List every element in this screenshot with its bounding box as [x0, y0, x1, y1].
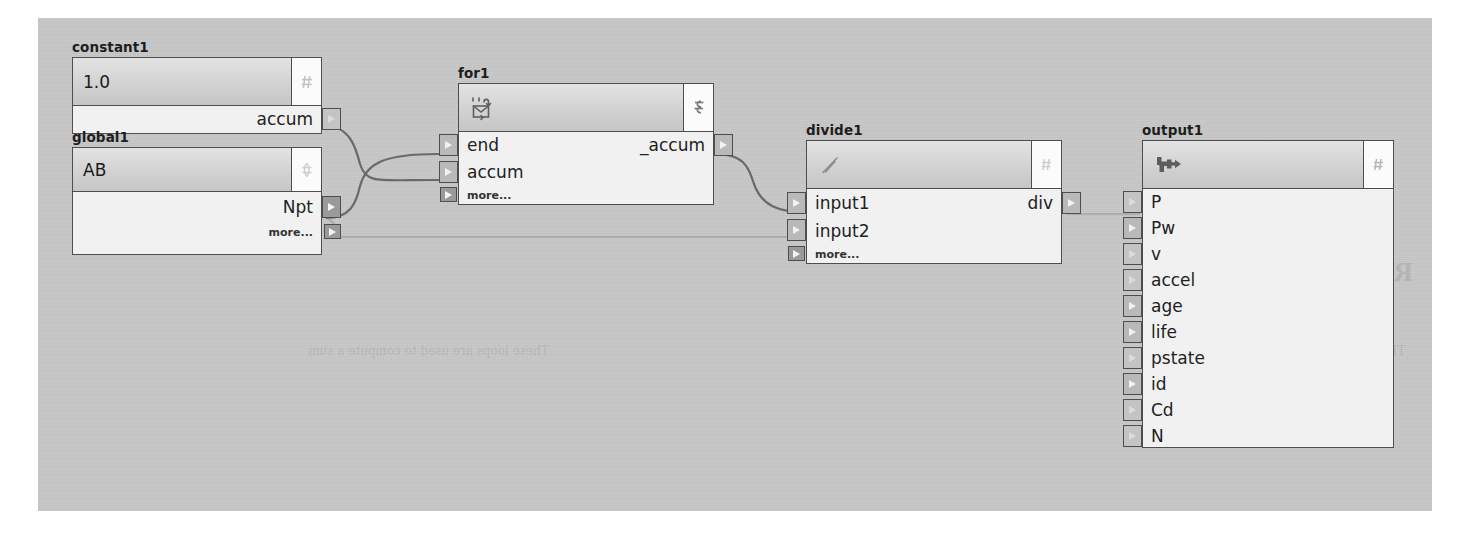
port-connector-output1-cd-in[interactable] — [1123, 399, 1142, 421]
port-connector-output1-v-in[interactable] — [1123, 243, 1142, 265]
node-body-global1[interactable]: AB — [72, 147, 322, 255]
node-header-global1: AB — [73, 148, 321, 192]
node-title-divide1: divide1 — [806, 123, 1062, 138]
global1-ports: Npt more... — [73, 192, 321, 254]
port-row-for1-accum[interactable]: accum — [459, 159, 713, 186]
port-label-pw: Pw — [1143, 220, 1175, 237]
port-label-accum-out: _accum — [640, 137, 713, 154]
port-connector-output1-pstate-in[interactable] — [1123, 347, 1142, 369]
loop-icon — [469, 94, 495, 122]
port-row-output1-accel[interactable]: accel — [1143, 267, 1393, 293]
node-title-for1: for1 — [458, 66, 714, 81]
node-for1[interactable]: for1 — [458, 66, 714, 205]
port-label-input2: input2 — [807, 223, 870, 240]
port-label-pstate: pstate — [1143, 350, 1205, 367]
output1-type-button[interactable] — [1363, 141, 1393, 188]
global1-more-label: more... — [269, 227, 321, 238]
node-body-constant1[interactable]: 1.0 — [72, 57, 322, 134]
constant1-value-text: 1.0 — [83, 72, 110, 92]
port-connector-divide1-input1-in[interactable] — [787, 192, 806, 214]
port-connector-output1-accel-in[interactable] — [1123, 269, 1142, 291]
port-label-div: div — [1027, 195, 1061, 212]
port-label-id: id — [1143, 376, 1167, 393]
port-row-divide1-input1[interactable]: input1 div — [807, 189, 1061, 217]
wire-global1-npt-to-divide1-input2 — [328, 219, 808, 237]
port-connector-for1-more-in[interactable] — [440, 187, 457, 202]
port-row-for1-more[interactable]: more... — [459, 186, 713, 204]
port-connector-divide1-div-out[interactable] — [1062, 192, 1081, 214]
node-header-divide1 — [807, 141, 1061, 189]
port-row-output1-cd[interactable]: Cd — [1143, 397, 1393, 423]
port-connector-for1-accum-in[interactable] — [439, 161, 458, 183]
constant1-value-field[interactable]: 1.0 — [73, 58, 291, 105]
divide1-icon-area — [807, 141, 1031, 188]
node-divide1[interactable]: divide1 — [806, 123, 1062, 264]
bleed-text-4: These loops are used to compute a sum — [308, 344, 549, 358]
port-connector-constant1-accum-out[interactable] — [322, 108, 341, 130]
port-row-output1-life[interactable]: life — [1143, 319, 1393, 345]
divide1-more-label: more... — [807, 249, 859, 260]
port-row-for1-end[interactable]: end _accum — [459, 132, 713, 159]
port-label-end: end — [459, 137, 499, 154]
port-connector-output1-n-in[interactable] — [1123, 425, 1142, 447]
for1-type-button[interactable] — [683, 84, 713, 131]
port-row-divide1-more[interactable]: more... — [807, 245, 1061, 263]
port-label-npt: Npt — [283, 199, 321, 216]
node-title-constant1: constant1 — [72, 40, 322, 55]
divide1-ports: input1 div input2 — [807, 189, 1061, 263]
node-header-output1 — [1143, 141, 1393, 189]
port-label-accum-in: accum — [459, 164, 523, 181]
port-connector-for1-accum-out[interactable] — [714, 134, 733, 156]
port-connector-output1-id-in[interactable] — [1123, 373, 1142, 395]
port-label-v: v — [1143, 246, 1161, 263]
node-title-global1: global1 — [72, 130, 322, 145]
port-connector-for1-end-in[interactable] — [439, 134, 458, 156]
port-label-accum: accum — [257, 111, 321, 128]
port-row-output1-pw[interactable]: Pw — [1143, 215, 1393, 241]
global1-type-button[interactable] — [291, 148, 321, 191]
branch-icon — [688, 95, 710, 121]
node-output1[interactable]: output1 — [1142, 123, 1394, 448]
node-constant1[interactable]: constant1 1.0 — [72, 40, 322, 134]
port-row-output1-n[interactable]: N — [1143, 423, 1393, 449]
port-row-output1-v[interactable]: v — [1143, 241, 1393, 267]
globe-icon — [296, 157, 318, 183]
hash-icon — [296, 69, 318, 95]
global1-value-text: AB — [83, 160, 106, 180]
port-label-accel: accel — [1143, 272, 1195, 289]
port-connector-global1-npt-out[interactable] — [322, 196, 341, 218]
node-global1[interactable]: global1 AB — [72, 130, 322, 255]
port-label-input1: input1 — [807, 195, 870, 212]
port-connector-output1-age-in[interactable] — [1123, 295, 1142, 317]
port-connector-output1-pw-in[interactable] — [1123, 217, 1142, 239]
port-row-output1-pstate[interactable]: pstate — [1143, 345, 1393, 371]
output1-icon-area — [1143, 141, 1363, 188]
port-connector-global1-more-out[interactable] — [324, 224, 341, 239]
port-connector-output1-p-in[interactable] — [1123, 191, 1142, 213]
hash-icon — [1368, 152, 1390, 178]
node-graph-canvas[interactable]: Running a Loop for and for-each These lo… — [38, 18, 1432, 511]
port-row-divide1-input2[interactable]: input2 — [807, 217, 1061, 245]
port-row-global1-npt[interactable]: Npt — [73, 192, 321, 222]
node-body-for1[interactable]: end _accum accum — [458, 83, 714, 205]
node-body-output1[interactable]: P Pw v accel — [1142, 140, 1394, 448]
port-label-age: age — [1143, 298, 1183, 315]
for1-more-label: more... — [459, 190, 511, 201]
port-connector-divide1-more-in[interactable] — [788, 246, 805, 261]
for1-ports: end _accum accum — [459, 132, 713, 204]
node-header-constant1: 1.0 — [73, 58, 321, 106]
hash-icon — [1036, 152, 1058, 178]
for1-icon-area — [459, 84, 683, 131]
divide1-type-button[interactable] — [1031, 141, 1061, 188]
constant1-type-button[interactable] — [291, 58, 321, 105]
global1-value-field[interactable]: AB — [73, 148, 291, 191]
node-body-divide1[interactable]: input1 div input2 — [806, 140, 1062, 264]
port-connector-output1-life-in[interactable] — [1123, 321, 1142, 343]
port-connector-divide1-input2-in[interactable] — [787, 219, 806, 241]
port-row-global1-more[interactable]: more... — [73, 222, 321, 242]
port-row-output1-age[interactable]: age — [1143, 293, 1393, 319]
node-title-output1: output1 — [1142, 123, 1394, 138]
port-row-output1-p[interactable]: P — [1143, 189, 1393, 215]
port-label-life: life — [1143, 324, 1177, 341]
port-row-output1-id[interactable]: id — [1143, 371, 1393, 397]
